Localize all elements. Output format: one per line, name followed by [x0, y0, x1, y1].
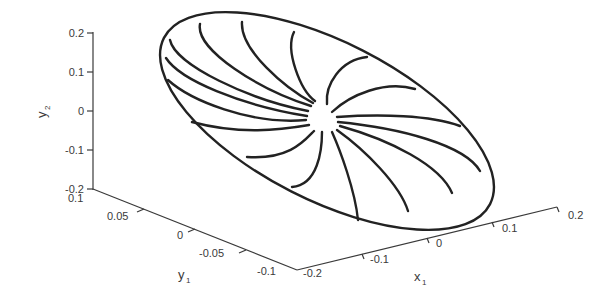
z-tick-label: 0.1: [69, 66, 84, 78]
svg-text:1: 1: [186, 276, 191, 285]
trajectory-curve: [166, 58, 307, 116]
svg-text:y: y: [178, 267, 185, 282]
z-axis: 0.2 0.1 0 -0.1 -0.2 y 2: [34, 27, 93, 195]
svg-text:2: 2: [43, 105, 52, 110]
y-axis-label: y 1: [178, 267, 191, 285]
y-tick-label: 0: [177, 229, 183, 241]
z-tick-label: 0.2: [69, 27, 84, 39]
x-tick-label: -0.1: [370, 253, 389, 265]
y-axis: 0.1 0.05 0 -0.05 -0.1 y 1: [68, 189, 297, 285]
svg-text:x: x: [414, 269, 421, 284]
y-tick-label: 0.05: [107, 210, 128, 222]
y-tick-label: -0.1: [257, 265, 276, 277]
trajectory-curve: [242, 22, 313, 103]
x-axis: -0.2 -0.1 0 0.1 0.2 x 1: [297, 207, 583, 287]
trajectory-curve: [247, 131, 314, 157]
trajectory-curve: [340, 126, 452, 193]
trajectory-curve: [332, 132, 358, 220]
z-tick-label: -0.1: [65, 144, 84, 156]
y-tick-label: 0.1: [68, 192, 83, 204]
trajectory-curve: [292, 132, 322, 187]
x-tick-label: 0.1: [502, 222, 517, 234]
x-tick-label: 0.2: [568, 209, 583, 221]
z-tick-label: 0: [78, 105, 84, 117]
svg-text:y: y: [34, 111, 49, 118]
x-tick-label: -0.2: [303, 267, 322, 279]
boundary-ellipse: [128, 0, 526, 274]
x-axis-label: x 1: [414, 269, 427, 287]
trajectory-curves: [128, 0, 526, 274]
trajectory-curve: [327, 57, 367, 104]
x-tick-label: 0: [436, 237, 442, 249]
trajectory-curve: [332, 86, 415, 112]
svg-text:1: 1: [422, 278, 427, 287]
trajectory-curve: [192, 122, 309, 130]
phase-portrait-3d-chart: 0.2 0.1 0 -0.1 -0.2 y 2 0.1 0.05 0 -0.05…: [0, 0, 616, 304]
z-axis-label: y 2: [34, 105, 52, 118]
y-tick-label: -0.05: [199, 247, 224, 259]
